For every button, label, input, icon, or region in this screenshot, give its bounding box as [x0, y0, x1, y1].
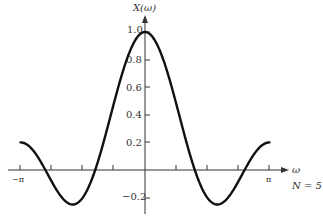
y-axis-label: X(ω)	[132, 2, 156, 13]
n-annotation: N = 5	[291, 180, 322, 191]
dirichlet-kernel-chart: X(ω) 1.0 0.8 0.6 0.4 0.2 −0.2 −π π ω N =…	[0, 0, 323, 218]
y-tick-label-0-2: 0.2	[126, 137, 142, 148]
y-axis-arrow-icon	[142, 15, 148, 23]
x-tick-label-pi: π	[266, 175, 271, 184]
y-ticks	[145, 32, 150, 198]
x-tick-label-minus-pi: −π	[12, 175, 24, 184]
y-tick-label-0-4: 0.4	[126, 109, 142, 120]
x-axis-arrow-icon	[281, 167, 289, 173]
y-tick-label-0-6: 0.6	[126, 82, 142, 93]
y-tick-label-neg-0-2: −0.2	[122, 191, 146, 202]
x-axis-label: ω	[292, 164, 300, 175]
